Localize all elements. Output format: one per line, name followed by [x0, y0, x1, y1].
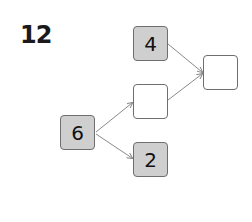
arrow-left-to-middle: [96, 103, 132, 132]
node-top-box: 4: [133, 26, 168, 61]
node-left-box: 6: [60, 115, 95, 150]
node-bottom-box: 2: [133, 142, 168, 177]
arrow-middle-to-right: [168, 74, 202, 100]
arrow-left-to-bottom: [96, 134, 132, 158]
node-bottom-label: 2: [144, 148, 157, 172]
node-left-label: 6: [71, 121, 84, 145]
node-right-answer-box[interactable]: [203, 55, 238, 90]
arrows: [0, 0, 252, 222]
arrow-top-to-right: [168, 44, 202, 72]
node-top-label: 4: [144, 32, 157, 56]
node-middle-answer-box[interactable]: [133, 84, 168, 119]
